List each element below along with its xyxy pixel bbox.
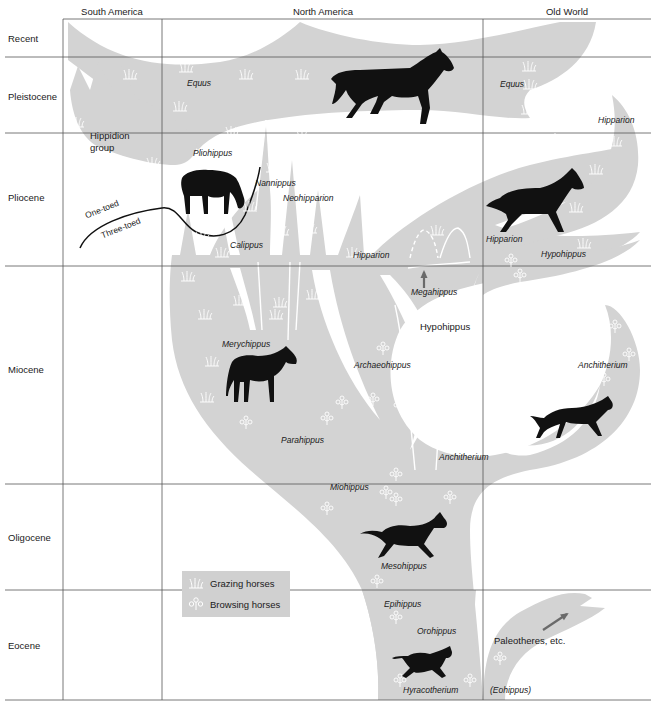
epoch-pleistocene: Pleistocene: [8, 91, 57, 102]
eocene-trunk: [362, 590, 483, 700]
epoch-miocene: Miocene: [8, 364, 44, 375]
grass-icon: [412, 138, 426, 148]
taxon-label-merychippus: Merychippus: [222, 340, 270, 349]
grass-icon: [188, 577, 204, 589]
legend-label-grazing: Grazing horses: [210, 578, 274, 589]
grass-icon: [371, 232, 385, 242]
taxon-label-parahippus: Parahippus: [281, 436, 324, 445]
taxon-label-hipparion-ow-mid: Hipparion: [486, 235, 522, 244]
taxon-label-hipparion-ow-top: Hipparion: [598, 116, 634, 125]
taxon-label-equus-na: Equus: [187, 79, 211, 88]
horse-evolution-diagram: South America North America Old World Re…: [0, 0, 653, 711]
grass-icon: [296, 130, 310, 140]
legend-item-browsing: Browsing horses: [188, 595, 280, 613]
shrub-icon: [457, 427, 469, 440]
epoch-pliocene: Pliocene: [8, 192, 44, 203]
shrub-icon: [339, 614, 351, 627]
column-header-south-america: South America: [81, 6, 143, 17]
epoch-oligocene: Oligocene: [8, 532, 51, 543]
taxon-label-hippidion: Hippidion: [90, 131, 130, 141]
taxon-label-anchitherium-na: Anchitherium: [439, 453, 489, 462]
taxon-label-hypohippus-ow: Hypohippus: [541, 250, 586, 259]
legend: Grazing horses Browsing horses: [182, 571, 290, 617]
taxon-label-miohippus: Miohippus: [330, 483, 369, 492]
taxon-label-megahippus: Megahippus: [411, 288, 457, 297]
taxon-label-epihippus: Epihippus: [384, 600, 421, 609]
taxon-label-eohippus: (Eohippus): [490, 686, 531, 695]
taxon-label-pliohippus: Pliohippus: [193, 149, 232, 158]
grass-icon: [313, 165, 327, 175]
taxon-label-archaeohippus: Archaeohippus: [354, 361, 411, 370]
diagram-canvas: [0, 0, 653, 711]
grass-icon: [549, 133, 563, 143]
taxon-label-paleotheres: Paleotheres, etc.: [494, 636, 565, 646]
taxon-label-calippus: Calippus: [230, 241, 263, 250]
column-header-north-america: North America: [293, 6, 353, 17]
taxon-label-hipparion-na: Hipparion: [353, 251, 389, 260]
epoch-recent: Recent: [8, 33, 38, 44]
pliohippus-horse-icon: [181, 170, 244, 214]
taxon-label-equus-ow: Equus: [500, 80, 524, 89]
taxon-label-mesohippus: Mesohippus: [381, 562, 427, 571]
epoch-eocene: Eocene: [8, 640, 40, 651]
column-header-old-world: Old World: [546, 6, 588, 17]
paleotheres-branch: [483, 593, 605, 700]
grass-icon: [116, 239, 130, 249]
taxon-label-orohippus: Orohippus: [417, 627, 456, 636]
shrub-icon: [431, 301, 443, 314]
shrub-icon: [188, 597, 204, 611]
taxon-label-nannippus: Nannippus: [255, 179, 296, 188]
legend-label-browsing: Browsing horses: [210, 599, 280, 610]
taxon-label-hypohippus-na: Hypohippus: [420, 322, 470, 332]
taxon-label-hippidion-group: group: [90, 143, 114, 153]
taxon-label-neohipparion: Neohipparion: [283, 194, 334, 203]
legend-item-grazing: Grazing horses: [188, 574, 274, 592]
taxon-label-anchitherium-ow: Anchitherium: [578, 361, 628, 370]
taxon-label-hyracotherium: Hyracotherium: [403, 686, 458, 695]
